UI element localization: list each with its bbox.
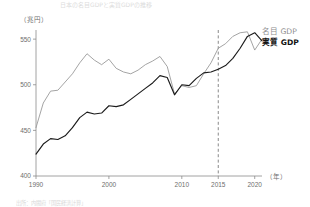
legend: 名目 GDP 実質 GDP <box>262 26 299 47</box>
y-axis-group: 400450500550 （兆円） <box>20 15 48 179</box>
y-tick-label-450: 450 <box>20 127 31 134</box>
legend-label-nominal: 名目 GDP <box>262 26 297 36</box>
series-line-nominal-gdp <box>36 32 262 128</box>
x-tick-label-2015: 2015 <box>211 181 226 188</box>
x-tick-label-2000: 2000 <box>102 181 117 188</box>
x-tick-group: 19902000201020152020 <box>29 176 263 188</box>
x-tick-label-2020: 2020 <box>247 181 262 188</box>
chart-figure: 日本の名目GDPと実質GDPの推移 400450500550 （兆円） 1990… <box>0 0 310 207</box>
x-tick-label-1990: 1990 <box>29 181 44 188</box>
y-axis-unit-label: （兆円） <box>20 15 48 24</box>
x-axis-group: 19902000201020152020 （年） <box>29 172 287 188</box>
series-line-real-gdp <box>36 33 262 154</box>
x-tick-label-2010: 2010 <box>175 181 190 188</box>
y-tick-label-500: 500 <box>20 81 31 88</box>
y-tick-label-550: 550 <box>20 36 31 43</box>
y-tick-label-400: 400 <box>20 172 31 179</box>
gdp-line-chart: 400450500550 （兆円） 19902000201020152020 （… <box>0 0 310 207</box>
legend-label-real: 実質 GDP <box>262 37 299 47</box>
y-tick-group: 400450500550 <box>20 36 36 180</box>
x-axis-label: （年） <box>266 172 287 181</box>
chart-source-faint: 出所：内閣府「国民経済計算」 <box>16 199 256 207</box>
